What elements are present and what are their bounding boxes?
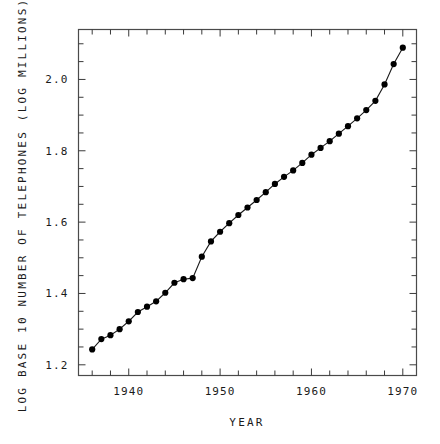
- data-point: [354, 115, 360, 121]
- data-point: [400, 45, 406, 51]
- x-axis-label: YEAR: [229, 416, 264, 429]
- data-point: [89, 346, 95, 352]
- data-point: [327, 138, 333, 144]
- data-point: [235, 212, 241, 218]
- data-point: [272, 181, 278, 187]
- data-point: [299, 160, 305, 166]
- data-point: [317, 145, 323, 151]
- telephones-line-chart: 1940195019601970 1.21.41.61.82.0 YEAR LO…: [0, 0, 440, 444]
- data-point-markers: [89, 45, 406, 353]
- chart-figure: 1940195019601970 1.21.41.61.82.0 YEAR LO…: [0, 0, 440, 444]
- data-point: [308, 152, 314, 158]
- x-tick-label: 1940: [113, 385, 144, 398]
- x-axis-major-ticks: [129, 30, 403, 376]
- data-point: [144, 304, 150, 310]
- data-point: [254, 197, 260, 203]
- data-point: [290, 167, 296, 173]
- y-axis-minor-ticks: [79, 44, 417, 347]
- data-point: [190, 275, 196, 281]
- y-axis-label: LOG BASE 10 NUMBER OF TELEPHONES (LOG MI…: [16, 0, 29, 412]
- y-tick-label: 1.8: [45, 145, 68, 158]
- data-point: [391, 61, 397, 67]
- data-point: [126, 318, 132, 324]
- data-point: [244, 204, 250, 210]
- data-point: [153, 298, 159, 304]
- data-point: [199, 254, 205, 260]
- data-point: [263, 189, 269, 195]
- data-point: [117, 326, 123, 332]
- data-point: [345, 123, 351, 129]
- x-tick-label: 1950: [205, 385, 236, 398]
- data-point: [381, 81, 387, 87]
- data-point: [162, 290, 168, 296]
- data-point: [107, 332, 113, 338]
- data-point: [135, 309, 141, 315]
- data-point: [336, 131, 342, 137]
- y-tick-label: 2.0: [45, 73, 68, 86]
- y-axis-tick-labels: 1.21.41.61.82.0: [45, 73, 68, 371]
- x-tick-label: 1970: [387, 385, 418, 398]
- data-point: [363, 107, 369, 113]
- y-tick-label: 1.2: [45, 359, 68, 372]
- data-point: [217, 229, 223, 235]
- data-point: [98, 336, 104, 342]
- x-tick-label: 1960: [296, 385, 327, 398]
- data-line-telephones: [92, 48, 403, 350]
- data-point: [281, 174, 287, 180]
- x-axis-minor-ticks: [92, 30, 384, 376]
- x-axis-tick-labels: 1940195019601970: [113, 385, 418, 398]
- data-point: [171, 280, 177, 286]
- y-tick-label: 1.4: [45, 287, 68, 300]
- data-point: [226, 220, 232, 226]
- data-point: [180, 276, 186, 282]
- y-tick-label: 1.6: [45, 216, 68, 229]
- data-point: [372, 98, 378, 104]
- data-point: [208, 238, 214, 244]
